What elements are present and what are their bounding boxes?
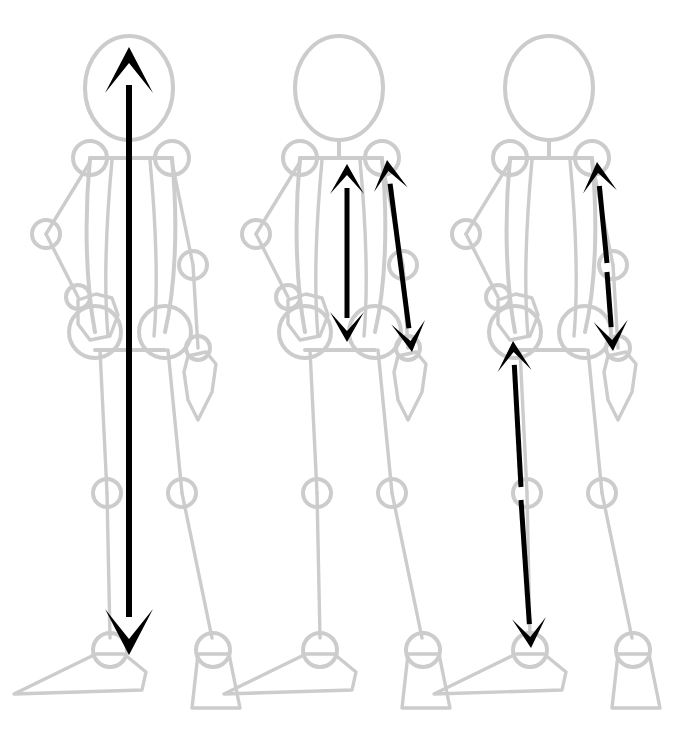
- skeleton-figure-2: [224, 36, 450, 708]
- panel-3-figure: [434, 36, 660, 708]
- upper-arm-arrow: [583, 162, 617, 263]
- torso-length-arrow: [330, 164, 364, 342]
- panel-2-figure: [224, 36, 450, 708]
- diagram-canvas: [0, 0, 674, 735]
- pose-diagram-svg: [0, 0, 674, 735]
- skeleton-figure-3: [434, 36, 660, 708]
- panel-1-figure: [14, 36, 240, 708]
